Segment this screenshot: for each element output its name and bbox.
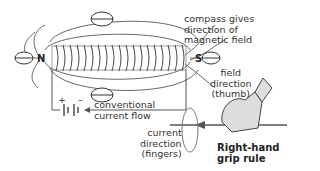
battery-plus: + (58, 95, 66, 106)
field-direction-caption: field direction (thumb) (210, 68, 252, 100)
compass-caption: compass gives direction of magnetic fiel… (184, 14, 254, 46)
north-pole-label: N (37, 53, 45, 64)
current-flow-caption: conventional current flow (94, 100, 155, 121)
south-pole-label: S (195, 53, 202, 64)
current-direction-caption: current direction (fingers) (140, 128, 182, 160)
battery-minus: – (78, 95, 83, 106)
rule-title: Right-hand grip rule (217, 142, 279, 164)
